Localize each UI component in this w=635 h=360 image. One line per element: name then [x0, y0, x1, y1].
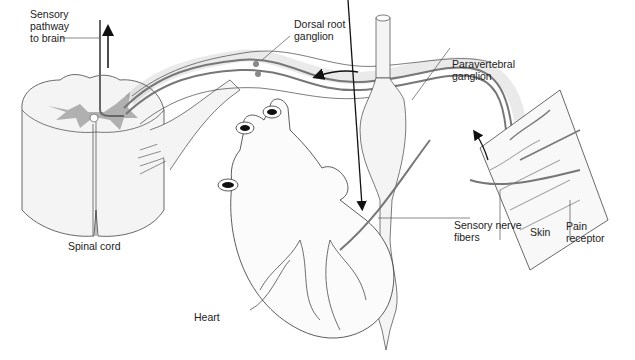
label-dorsal-root-ganglion: Dorsal root ganglion [294, 18, 345, 42]
label-skin: Skin [530, 226, 550, 238]
diagram-artwork [0, 0, 635, 360]
ganglion-cell [253, 61, 259, 67]
label-spinal-cord: Spinal cord [68, 240, 121, 252]
up-right-arrow-icon [348, 0, 362, 206]
label-sensory-pathway: Sensory pathway to brain [30, 8, 69, 44]
referred-pain-diagram: Sensory pathway to brain Dorsal root gan… [0, 0, 635, 360]
label-paravertebral-ganglion: Paravertebral ganglion [452, 58, 515, 82]
ganglion-cell [255, 71, 261, 77]
label-pain-receptor: Pain receptor [566, 220, 605, 244]
label-sensory-nerve-fibers: Sensory nerve fibers [454, 219, 522, 243]
label-heart: Heart [194, 311, 220, 323]
